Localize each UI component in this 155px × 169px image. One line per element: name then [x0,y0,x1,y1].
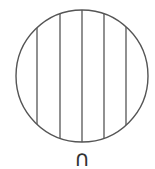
figure-label: ∩ [0,148,155,169]
diagram-canvas: ∩ [0,0,155,169]
striped-circle-figure [0,0,155,169]
vertical-lines [37,0,126,169]
